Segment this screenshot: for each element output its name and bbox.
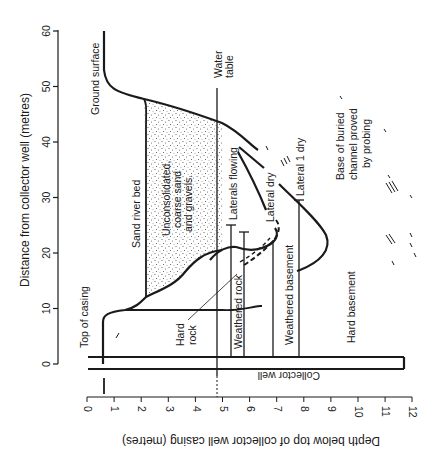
x-tick-label: 1	[109, 406, 121, 412]
x-tick-label: 7	[272, 406, 284, 412]
y-axis-label: Distance from collector well (metres)	[18, 93, 32, 287]
y-axis: 0 10 20 30 40 50 60 Distance from collec…	[18, 25, 58, 367]
x-tick-label: 3	[164, 406, 176, 412]
hard-rock-label-2: rock	[186, 324, 198, 345]
sand-river-bed-label: Sand river bed	[130, 180, 142, 248]
weathered-rock-label: Weathered rock	[232, 274, 244, 349]
x-axis-label: Depth below top of collector well casing…	[122, 434, 380, 448]
water-table-label-2: table	[223, 55, 235, 78]
lateral-dry-line	[280, 192, 320, 230]
base-of-channel-label-3: by probing	[360, 119, 372, 168]
x-tick-label: 2	[136, 406, 148, 412]
y-tick-label: 10	[40, 303, 52, 315]
collector-well	[88, 357, 404, 369]
lateral-1-dry-label: Lateral 1 dry	[294, 137, 306, 196]
lateral-dry-label: Lateral dry	[264, 172, 276, 222]
x-tick-label: 11	[380, 406, 392, 417]
weathered-basement-lower-curve	[272, 293, 320, 305]
x-tick-label: 9	[326, 406, 338, 412]
y-tick-label: 50	[40, 81, 52, 93]
x-tick-label: 10	[353, 406, 365, 418]
y-tick-label: 20	[40, 247, 52, 259]
x-tick-label: 0	[82, 406, 94, 412]
hard-rock-label-1: Hard	[174, 323, 186, 346]
laterals-flowing-line-1	[239, 147, 264, 168]
base-of-channel-label-1: Base of buried	[334, 112, 346, 180]
geological-cross-section-figure: 0 10 20 30 40 50 60 Distance from collec…	[0, 0, 434, 452]
x-tick-label: 8	[299, 406, 311, 412]
y-tick-label: 0	[40, 361, 52, 367]
hard-rock-pointer	[188, 274, 237, 320]
x-tick-label: 12	[407, 406, 419, 418]
x-axis: 0 1 2 3 4 5 6 7 8 9 10 11 12 Depth below…	[82, 397, 419, 448]
x-tick-label: 6	[245, 406, 257, 412]
unconsolidated-label-3: and gravels.	[182, 175, 194, 232]
top-of-casing-label: Top of casing	[78, 286, 90, 348]
weathered-basement-label: Weathered basement	[283, 245, 295, 345]
laterals-flowing-label: Laterals flowing	[227, 147, 239, 220]
collector-well-label: Collector well	[258, 370, 320, 382]
y-tick-label: 30	[40, 192, 52, 204]
y-tick-label: 60	[40, 25, 52, 37]
base-of-channel-label-2: channel proved	[347, 108, 359, 180]
ground-surface-label: Ground surface	[89, 42, 101, 115]
laterals-flowing-line-2	[238, 152, 266, 210]
x-tick-label: 5	[218, 406, 230, 412]
y-tick-label: 40	[40, 136, 52, 148]
hard-basement-label: Hard basement	[345, 271, 357, 343]
x-tick-label: 4	[191, 406, 203, 412]
